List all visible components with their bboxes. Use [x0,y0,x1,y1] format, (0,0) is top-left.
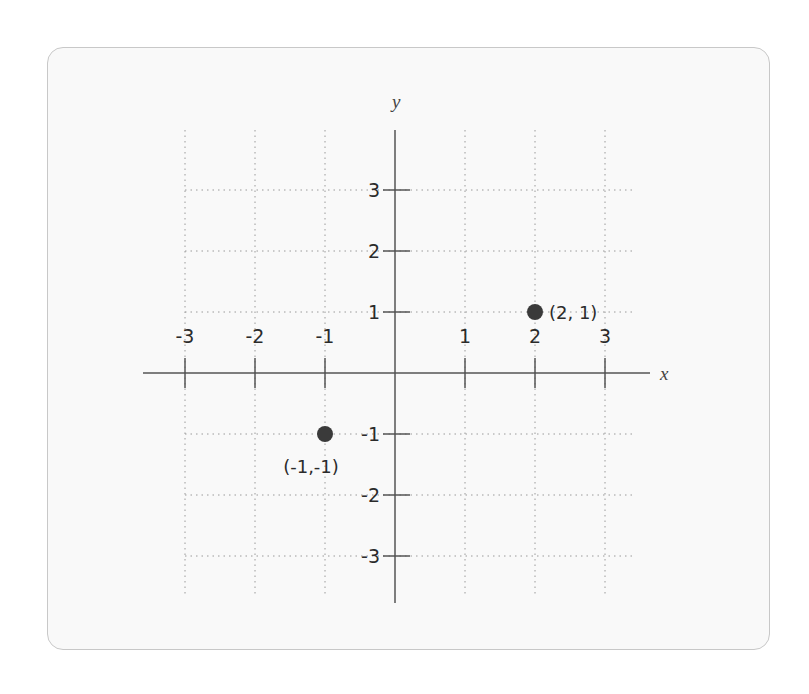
x-tick-label: -3 [176,325,195,347]
coordinate-plane: x y -3-2-1123321-1-2-3 (2, 1)(-1,-1) [0,0,809,694]
y-tick-label: 3 [368,179,380,201]
data-point-marker [317,426,333,442]
data-point-label: (2, 1) [549,302,597,323]
y-tick-label: -2 [361,484,380,506]
axes: x y [143,91,669,603]
x-tick-label: 3 [599,325,611,347]
y-tick-label: -1 [361,423,380,445]
y-axis-label: y [390,91,401,112]
x-tick-label: 2 [529,325,541,347]
y-tick-label: 2 [368,240,380,262]
y-tick-label: -3 [361,545,380,567]
y-tick-label: 1 [368,301,380,323]
x-tick-label: -2 [246,325,265,347]
data-point-label: (-1,-1) [283,456,339,477]
grid-lines [185,130,636,597]
x-tick-label: 1 [459,325,471,347]
x-tick-label: -1 [316,325,335,347]
x-axis-label: x [659,363,669,384]
data-point-marker [527,304,543,320]
